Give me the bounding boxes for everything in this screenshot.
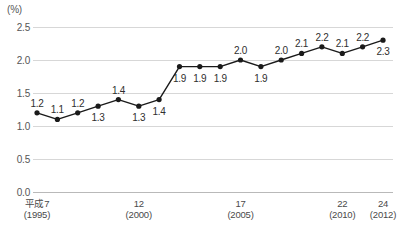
data-point-label: 2.1	[295, 38, 308, 49]
data-point-label: 1.9	[173, 72, 186, 83]
x-tick-year: (2010)	[329, 209, 355, 220]
x-tick-era: 平成7	[24, 198, 50, 209]
data-point-label: 1.2	[71, 97, 84, 108]
data-point-label: 1.9	[214, 72, 227, 83]
x-tick-label: 17(2005)	[227, 198, 253, 220]
x-tick-era: 12	[126, 198, 152, 209]
x-tick-label: 24(2012)	[370, 198, 396, 220]
data-point-marker	[360, 44, 365, 49]
data-point-label: 1.2	[30, 97, 43, 108]
data-point-label: 2.2	[356, 31, 369, 42]
data-point-label: 1.4	[153, 105, 166, 116]
x-tick-label: 22(2010)	[329, 198, 355, 220]
data-point-marker	[197, 64, 202, 69]
data-point-label: 1.3	[92, 112, 105, 123]
data-point-marker	[34, 110, 39, 115]
data-point-marker	[218, 64, 223, 69]
data-point-label: 2.3	[376, 46, 389, 57]
data-point-marker	[238, 57, 243, 62]
x-tick-label: 12(2000)	[126, 198, 152, 220]
x-tick-era: 24	[370, 198, 396, 209]
x-tick-year: (1995)	[24, 209, 50, 220]
data-point-marker	[258, 64, 263, 69]
x-tick-label: 平成7(1995)	[24, 198, 50, 220]
data-point-label: 1.4	[112, 84, 125, 95]
x-tick-era: 17	[227, 198, 253, 209]
data-point-label: 2.2	[315, 31, 328, 42]
data-point-label: 2.1	[336, 38, 349, 49]
data-point-marker	[279, 57, 284, 62]
data-point-marker	[340, 51, 345, 56]
data-point-marker	[299, 51, 304, 56]
data-point-marker	[96, 104, 101, 109]
data-point-label: 1.9	[254, 72, 267, 83]
series-line	[37, 40, 383, 119]
x-tick-year: (2012)	[370, 209, 396, 220]
data-point-label: 2.0	[275, 45, 288, 56]
x-tick-era: 22	[329, 198, 355, 209]
data-point-marker	[75, 110, 80, 115]
x-tick-year: (2000)	[126, 209, 152, 220]
data-point-marker	[116, 97, 121, 102]
data-point-marker	[380, 38, 385, 43]
data-point-label: 1.9	[193, 72, 206, 83]
data-point-marker	[157, 97, 162, 102]
data-point-label: 1.1	[51, 104, 64, 115]
data-point-label: 1.3	[132, 112, 145, 123]
data-point-marker	[136, 104, 141, 109]
data-point-marker	[177, 64, 182, 69]
x-tick-year: (2005)	[227, 209, 253, 220]
data-point-marker	[55, 117, 60, 122]
data-point-marker	[319, 44, 324, 49]
line-chart: (%) 2.52.01.51.00.50.0 1.21.11.21.31.41.…	[0, 0, 398, 234]
data-point-label: 2.0	[234, 45, 247, 56]
